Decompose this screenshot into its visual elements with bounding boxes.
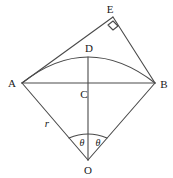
segment-radius-AO <box>22 83 88 160</box>
point-label-A: A <box>8 78 16 89</box>
radius-label-r: r <box>45 118 49 129</box>
angle-label-theta-right: θ <box>96 138 101 148</box>
segment-side-EB <box>113 17 155 83</box>
point-label-O: O <box>84 165 92 176</box>
angle-label-theta-left: θ <box>80 138 85 148</box>
point-label-B: B <box>160 79 167 90</box>
segment-radius-BO <box>88 83 155 160</box>
geometry-diagram: A B C D E O r θ θ <box>0 0 173 178</box>
point-label-E: E <box>107 4 114 15</box>
point-label-D: D <box>85 43 93 54</box>
point-label-C: C <box>80 89 87 100</box>
